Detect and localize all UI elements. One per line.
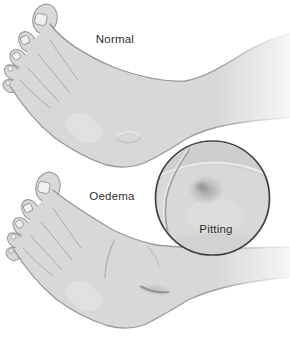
illustration-canvas: Pitting Normal Oedema	[0, 0, 290, 341]
normal-foot-illustration	[0, 1, 290, 167]
normal-label: Normal	[96, 33, 134, 45]
pitting-pit-spot	[188, 176, 224, 205]
oedema-label: Oedema	[89, 190, 135, 202]
pitting-label: Pitting	[199, 223, 232, 235]
oedema-figure: Pitting Normal Oedema	[0, 0, 290, 341]
normal-foot-body	[10, 24, 290, 167]
